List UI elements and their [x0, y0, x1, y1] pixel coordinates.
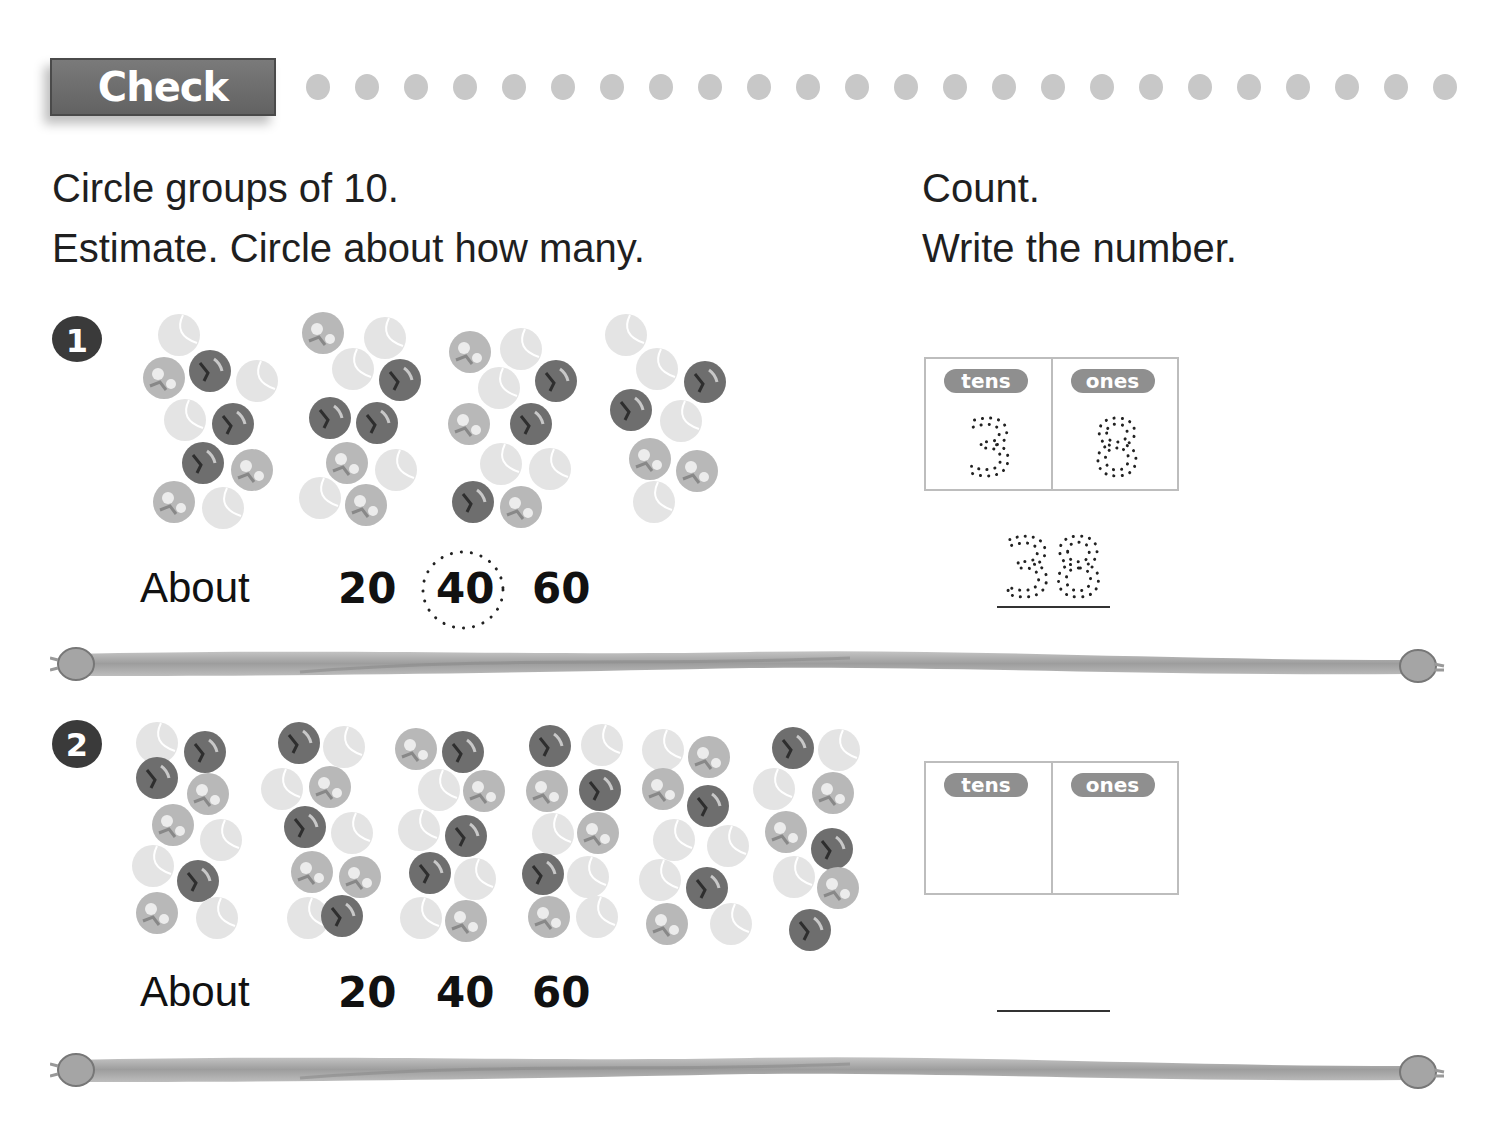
dot-icon: [1384, 74, 1408, 100]
tennis-ball-icon: [284, 806, 326, 848]
ones-column: ones 8: [1051, 359, 1178, 489]
traced-answer-1[interactable]: 38: [990, 526, 1120, 606]
tennis-ball-icon: [646, 903, 688, 945]
dot-icon: [1090, 74, 1114, 100]
ones-column[interactable]: ones: [1051, 763, 1178, 893]
tennis-ball-icon: [567, 856, 609, 898]
instruction-right: Count. Write the number.: [922, 158, 1237, 278]
tennis-ball-icon: [753, 768, 795, 810]
tennis-ball-icon: [136, 757, 178, 799]
answer-line-1[interactable]: [997, 606, 1110, 608]
tennis-ball-icon: [395, 728, 437, 770]
tens-column: tens 3: [926, 359, 1051, 489]
svg-text:8: 8: [1092, 404, 1140, 487]
tennis-ball-icon: [200, 819, 242, 861]
instruction-count: Count.: [922, 158, 1237, 218]
tennis-ball-icon: [309, 766, 351, 808]
instruction-write-number: Write the number.: [922, 218, 1237, 278]
tennis-ball-icon: [136, 892, 178, 934]
tennis-ball-icon: [772, 727, 814, 769]
tennis-ball-icon: [576, 896, 618, 938]
tennis-ball-icon: [409, 852, 451, 894]
tennis-ball-icon: [445, 900, 487, 942]
tennis-ball-icon: [177, 860, 219, 902]
tennis-ball-icon: [321, 895, 363, 937]
tennis-ball-icon: [688, 736, 730, 778]
tennis-ball-icon: [278, 722, 320, 764]
tennis-ball-icon: [187, 773, 229, 815]
tennis-ball-icon: [454, 858, 496, 900]
tennis-ball-icon: [463, 770, 505, 812]
dot-icon: [992, 74, 1016, 100]
tennis-ball-icon: [398, 809, 440, 851]
dot-icon: [943, 74, 967, 100]
ones-label: ones: [1071, 773, 1155, 797]
dot-icon: [1433, 74, 1457, 100]
tennis-ball-icon: [291, 851, 333, 893]
dot-icon: [1335, 74, 1359, 100]
tennis-ball-icon: [773, 856, 815, 898]
tennis-ball-icon: [261, 768, 303, 810]
answer-line-2[interactable]: [997, 1010, 1110, 1012]
tennis-ball-icon: [686, 867, 728, 909]
dot-icon: [1139, 74, 1163, 100]
dot-icon: [1286, 74, 1310, 100]
tennis-ball-icon: [642, 729, 684, 771]
tennis-ball-icon: [579, 769, 621, 811]
tennis-ball-icon: [710, 903, 752, 945]
tens-label: tens: [944, 369, 1028, 393]
choice-20[interactable]: 20: [338, 968, 396, 1017]
tennis-ball-icon: [577, 812, 619, 854]
tens-label: tens: [944, 773, 1028, 797]
tennis-ball-icon: [526, 770, 568, 812]
ones-label: ones: [1071, 369, 1155, 393]
ones-traced-digit[interactable]: 8: [1073, 403, 1161, 487]
tennis-ball-icon: [152, 804, 194, 846]
tennis-ball-icon: [532, 813, 574, 855]
choice-60[interactable]: 60: [532, 968, 590, 1017]
tennis-ball-icon: [331, 812, 373, 854]
tennis-ball-icon: [339, 856, 381, 898]
tens-column[interactable]: tens: [926, 763, 1051, 893]
about-label: About: [140, 968, 250, 1016]
tennis-ball-group-2: [0, 0, 900, 980]
tennis-ball-icon: [818, 729, 860, 771]
tennis-ball-icon: [323, 726, 365, 768]
tennis-ball-icon: [529, 725, 571, 767]
tens-traced-digit[interactable]: 3: [946, 403, 1034, 487]
tennis-ball-icon: [687, 785, 729, 827]
tennis-ball-icon: [811, 828, 853, 870]
tennis-ball-icon: [196, 897, 238, 939]
place-value-table-1: tens 3 ones 8: [924, 357, 1179, 491]
tennis-ball-icon: [707, 825, 749, 867]
tennis-ball-icon: [639, 859, 681, 901]
svg-text:3: 3: [966, 404, 1014, 487]
dot-icon: [1237, 74, 1261, 100]
tennis-ball-icon: [445, 815, 487, 857]
tennis-ball-icon: [528, 896, 570, 938]
choice-40[interactable]: 40: [436, 968, 494, 1017]
tennis-ball-icon: [418, 769, 460, 811]
tennis-ball-icon: [400, 897, 442, 939]
tennis-ball-icon: [765, 811, 807, 853]
dot-icon: [1188, 74, 1212, 100]
place-value-table-2: tens ones: [924, 761, 1179, 895]
rope-divider: [50, 1042, 1450, 1098]
tennis-ball-icon: [522, 853, 564, 895]
tennis-ball-icon: [132, 845, 174, 887]
tennis-ball-icon: [184, 731, 226, 773]
tennis-ball-icon: [581, 724, 623, 766]
tennis-ball-icon: [442, 731, 484, 773]
svg-text:38: 38: [1002, 526, 1104, 606]
tennis-ball-icon: [642, 768, 684, 810]
tennis-ball-icon: [789, 909, 831, 951]
tennis-ball-icon: [812, 772, 854, 814]
tennis-ball-icon: [653, 819, 695, 861]
tennis-ball-icon: [817, 867, 859, 909]
dot-icon: [1041, 74, 1065, 100]
